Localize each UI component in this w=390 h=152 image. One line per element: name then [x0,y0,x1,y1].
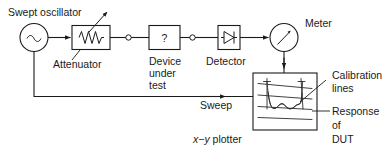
response-label-line-2: of [332,119,341,131]
detector-block [218,26,240,50]
dut-label-line-2: under [149,67,176,79]
swept-oscillator-label: Swept oscillator [8,6,82,18]
xy-plotter-box [253,73,317,130]
calibration-label-line-1: Calibration [332,69,382,81]
response-label-line-3: DUT [332,133,354,145]
attenuator-label: Attenuator [53,58,102,70]
detector-label: Detector [206,55,246,67]
dut-label-line-1: Device [149,55,181,67]
dut-label-line-3: test [149,79,166,91]
response-label-line-1: Response [332,105,379,117]
swept-oscillator-block [20,24,48,52]
block-diagram-figure: ? [0,0,390,152]
attenuator-block [72,12,110,60]
calibration-label-line-2: lines [332,82,354,94]
meter-label: Meter [305,17,332,29]
sweep-label: Sweep [200,99,232,111]
xy-plotter-label-rest: plotter [210,133,243,145]
xy-plotter-block [253,73,317,130]
meter-block [270,24,298,52]
terminal-b-open-circle [190,35,195,40]
diagram-canvas: ? [0,0,390,152]
terminal-a-open-circle [126,35,131,40]
dut-question-mark: ? [162,32,168,44]
device-under-test-block: ? [149,26,180,50]
xy-plotter-label: x−y plotter [192,133,242,145]
